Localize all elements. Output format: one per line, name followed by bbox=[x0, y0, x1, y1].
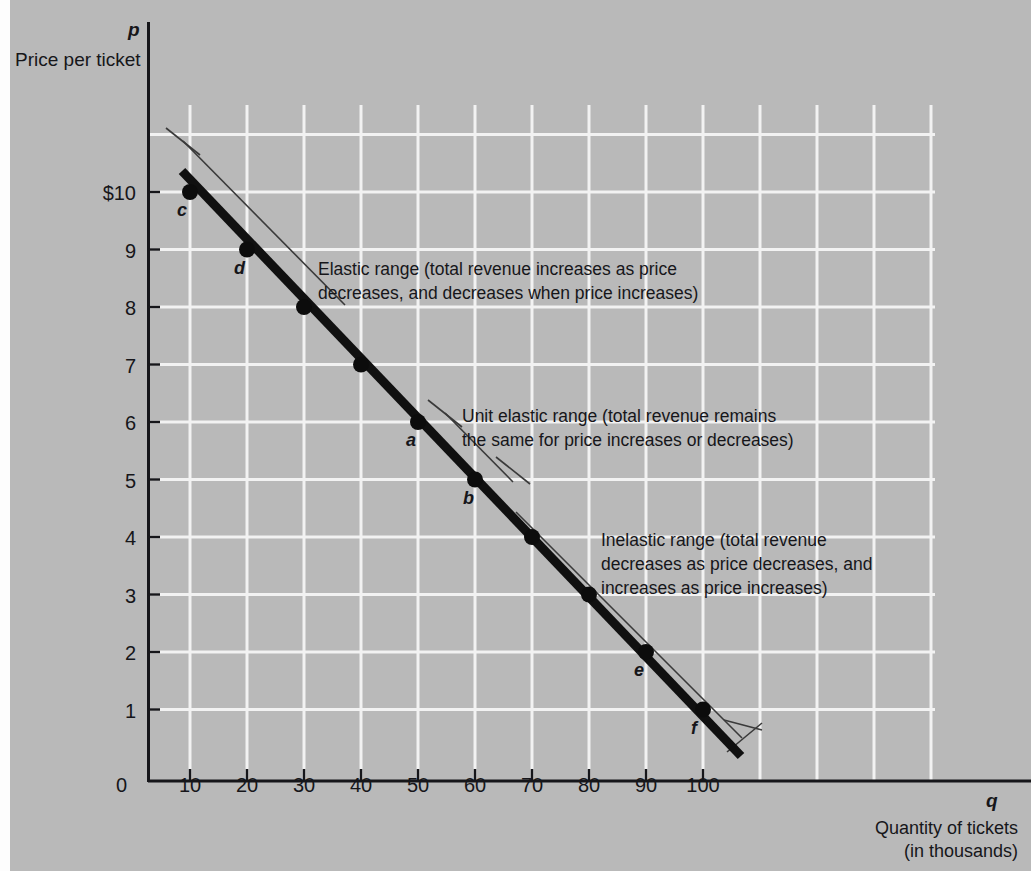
x-axis-name-line2: (in thousands) bbox=[760, 840, 1018, 863]
data-point-70-4 bbox=[524, 529, 540, 545]
data-point-b bbox=[467, 472, 483, 488]
annotation-elastic-line2: decreases, and decreases when price incr… bbox=[318, 282, 698, 305]
y-tick-label-1: 1 bbox=[56, 698, 136, 724]
data-point-d bbox=[239, 242, 255, 258]
data-point-a bbox=[410, 414, 426, 430]
y-tick-label-9: 9 bbox=[56, 238, 136, 264]
data-point-40-7 bbox=[353, 357, 369, 373]
annotation-inelastic-line3: increases as price increases) bbox=[601, 577, 828, 600]
annotation-unit-elastic-line2: the same for price increases or decrease… bbox=[462, 429, 794, 452]
point-label-a: a bbox=[406, 429, 416, 452]
origin-label: 0 bbox=[116, 772, 127, 798]
annotation-inelastic-line2: decreases as price decreases, and bbox=[601, 553, 872, 576]
demand-elasticity-chart: p Price per ticket q Quantity of tickets… bbox=[0, 0, 1031, 871]
data-point-80-3 bbox=[581, 587, 597, 603]
y-tick-label-6: 6 bbox=[56, 410, 136, 436]
y-axis-name: Price per ticket bbox=[15, 48, 141, 73]
y-tick-label-3: 3 bbox=[56, 583, 136, 609]
y-tick-label-10: $10 bbox=[56, 180, 136, 206]
y-axis-symbol: p bbox=[128, 18, 140, 43]
data-point-c bbox=[182, 184, 198, 200]
data-point-e bbox=[638, 644, 654, 660]
annotation-inelastic-line1: Inelastic range (total revenue bbox=[601, 529, 827, 552]
x-axis-name-line1: Quantity of tickets bbox=[760, 817, 1018, 840]
x-tick-label-100: 100 bbox=[663, 772, 743, 798]
y-tick-label-4: 4 bbox=[56, 525, 136, 551]
point-label-d: d bbox=[234, 257, 245, 280]
annotation-unit-elastic-line1: Unit elastic range (total revenue remain… bbox=[462, 405, 776, 428]
y-tick-label-2: 2 bbox=[56, 640, 136, 666]
y-tick-label-7: 7 bbox=[56, 353, 136, 379]
annotation-elastic-line1: Elastic range (total revenue increases a… bbox=[318, 258, 677, 281]
point-label-c: c bbox=[177, 199, 187, 222]
point-label-b: b bbox=[463, 487, 474, 510]
point-label-f: f bbox=[691, 717, 697, 740]
x-axis-symbol: q bbox=[986, 789, 998, 814]
point-label-e: e bbox=[634, 659, 644, 682]
data-point-f bbox=[695, 702, 711, 718]
y-tick-label-5: 5 bbox=[56, 468, 136, 494]
data-point-30-8 bbox=[296, 299, 312, 315]
y-tick-label-8: 8 bbox=[56, 295, 136, 321]
